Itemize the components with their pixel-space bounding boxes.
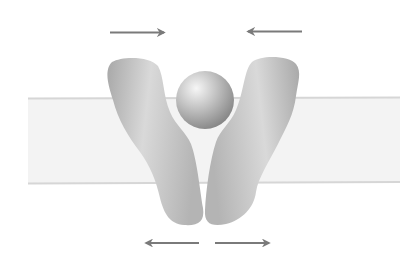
substrate-sphere [176,71,234,129]
top-arrows [110,32,302,33]
transporter-diagram [0,0,410,265]
